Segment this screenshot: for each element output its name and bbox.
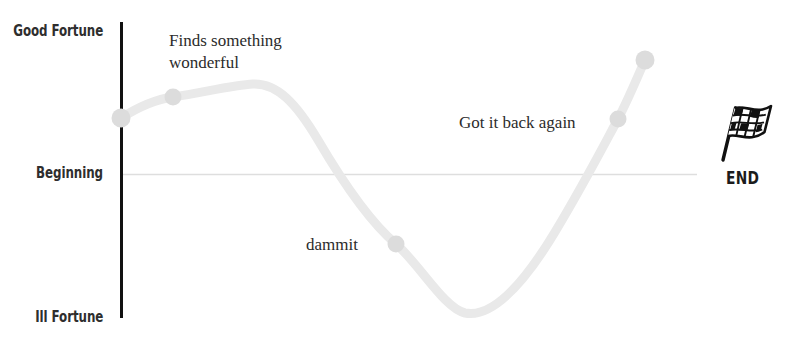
plot-canvas [0, 0, 791, 348]
fortune-curve [121, 60, 645, 314]
annotation-dammit: dammit [306, 234, 358, 256]
annotation-finds-something-wonderful: Finds something wonderful [169, 30, 282, 75]
axis-label-ill-fortune: Ill Fortune [35, 308, 103, 326]
axis-label-beginning: Beginning [36, 164, 103, 182]
story-arc-figure: Good Fortune Beginning Ill Fortune Finds… [0, 0, 791, 348]
data-point-finds-wonderful [165, 89, 182, 106]
data-point-end [636, 51, 655, 70]
data-point-beginning [112, 109, 131, 128]
end-marker-label: END [726, 168, 759, 188]
data-point-got-it-back [610, 111, 627, 128]
data-point-dammit [388, 236, 405, 253]
checkered-flag-icon [714, 104, 776, 166]
annotation-got-it-back-again: Got it back again [459, 112, 576, 134]
end-marker: END [714, 104, 784, 188]
axis-label-good-fortune: Good Fortune [13, 22, 103, 40]
